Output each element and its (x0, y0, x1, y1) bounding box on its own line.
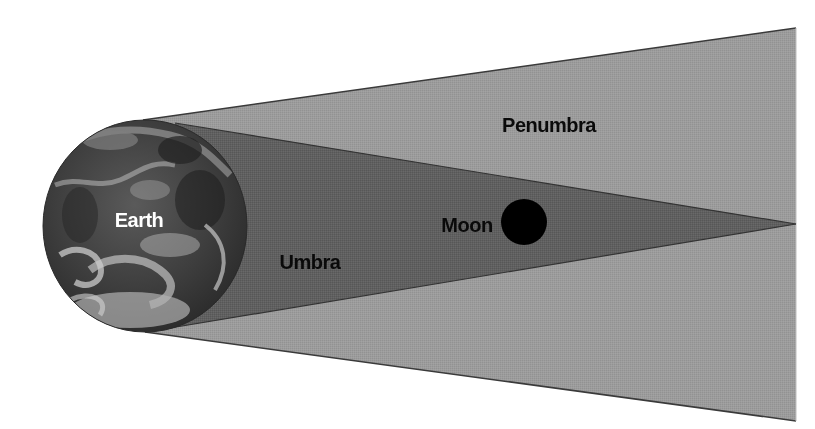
umbra-label: Umbra (280, 251, 342, 273)
penumbra-label: Penumbra (502, 114, 597, 136)
moon-label: Moon (441, 214, 492, 236)
earth-label: Earth (115, 209, 164, 231)
moon-icon (501, 199, 547, 245)
lunar-eclipse-diagram: Earth Moon Umbra Penumbra (0, 0, 815, 429)
